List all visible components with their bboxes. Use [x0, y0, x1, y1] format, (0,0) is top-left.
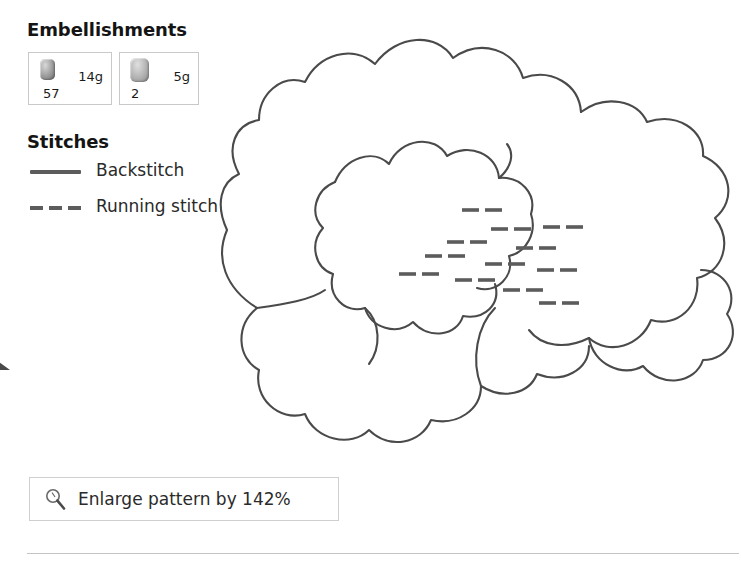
magnifier-icon — [43, 487, 67, 511]
embellishments-list: 14g 57 5g 2 — [28, 52, 199, 105]
bead-icon — [40, 59, 55, 80]
stitches-heading: Stitches — [27, 131, 109, 152]
dashed-line-icon — [30, 206, 81, 210]
embellishment-count: 57 — [43, 86, 60, 101]
embellishments-heading: Embellishments — [27, 19, 187, 40]
embellishment-count: 2 — [131, 86, 139, 101]
bottom-divider — [27, 553, 739, 554]
flower-pattern-outline — [185, 8, 741, 468]
enlarge-pattern-label: Enlarge pattern by 142% — [78, 489, 291, 509]
left-edge-arrow-icon — [0, 348, 14, 376]
enlarge-pattern-button[interactable]: Enlarge pattern by 142% — [29, 477, 339, 521]
bead-icon — [130, 58, 149, 82]
solid-line-icon — [30, 170, 81, 174]
embellishment-item[interactable]: 14g 57 — [28, 52, 112, 105]
embellishment-weight: 14g — [78, 69, 103, 84]
